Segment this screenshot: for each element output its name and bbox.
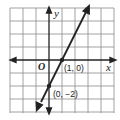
y-axis-down-arrow-icon — [47, 108, 52, 114]
x-axis-label: x — [105, 61, 111, 73]
line-lower-arrow-icon — [37, 103, 43, 111]
point-0-neg2 — [47, 84, 51, 88]
x-axis-right-arrow-icon — [110, 58, 116, 63]
origin-label: O — [38, 61, 45, 72]
point-label-1-0: (1, 0) — [64, 63, 84, 73]
x-axis-left-arrow-icon — [10, 58, 16, 63]
line-upper-arrow-icon — [84, 6, 90, 14]
y-axis-label: y — [53, 7, 59, 19]
point-label-0-neg2: (0, −2) — [53, 89, 78, 99]
point-1-0 — [60, 58, 64, 62]
coordinate-graph: y x O (1, 0) (0, −2) — [0, 0, 120, 120]
